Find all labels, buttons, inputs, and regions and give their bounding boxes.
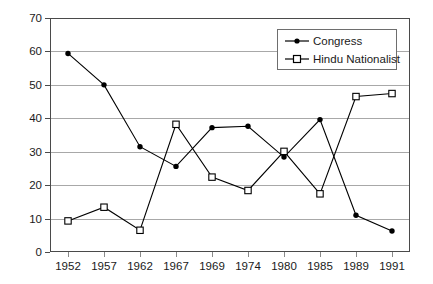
data-point-filled-circle [317, 117, 322, 122]
legend-item-congress: Congress [284, 33, 362, 49]
chart-legend: Congress Hindu Nationalist [277, 29, 397, 70]
series-line [68, 53, 392, 231]
filled-circle-icon [284, 35, 310, 47]
data-point-open-square [245, 187, 251, 193]
data-point-open-square [389, 90, 395, 96]
data-point-filled-circle [281, 154, 286, 159]
data-point-open-square [281, 148, 287, 154]
data-point-filled-circle [101, 82, 106, 87]
series-hindu-nationalist [65, 90, 395, 233]
legend-item-hindu-nationalist: Hindu Nationalist [284, 51, 400, 67]
legend-label-congress: Congress [313, 35, 362, 47]
data-point-filled-circle [353, 213, 358, 218]
data-point-open-square [65, 218, 71, 224]
open-square-icon [284, 53, 310, 65]
data-point-open-square [317, 191, 323, 197]
data-point-open-square [101, 204, 107, 210]
data-point-open-square [137, 227, 143, 233]
line-chart: 706050403020100 195219571962196719691974… [0, 0, 433, 284]
data-point-open-square [353, 93, 359, 99]
data-point-filled-circle [209, 125, 214, 130]
data-point-filled-circle [173, 164, 178, 169]
data-point-filled-circle [137, 144, 142, 149]
data-point-open-square [173, 121, 179, 127]
data-point-open-square [209, 174, 215, 180]
data-point-filled-circle [245, 124, 250, 129]
data-point-filled-circle [389, 228, 394, 233]
data-point-filled-circle [65, 51, 70, 56]
legend-label-hindu-nationalist: Hindu Nationalist [313, 53, 400, 65]
series-line [68, 94, 392, 231]
series-congress [65, 51, 394, 234]
